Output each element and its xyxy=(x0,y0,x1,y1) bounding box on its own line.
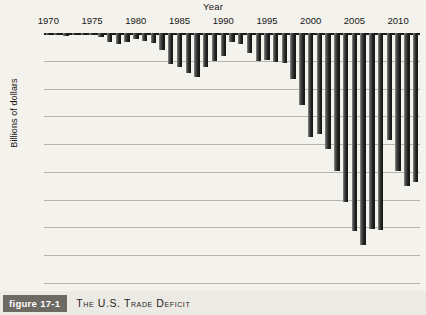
gridline xyxy=(44,283,420,284)
figure-number-badge: figure 17-1 xyxy=(3,295,67,312)
bar xyxy=(98,33,103,37)
x-axis-title: Year xyxy=(0,1,426,12)
x-axis-tick-label: 1975 xyxy=(82,15,103,26)
bar xyxy=(238,33,243,44)
bar xyxy=(186,33,191,73)
bar xyxy=(317,33,322,134)
bar xyxy=(194,33,199,77)
bar xyxy=(256,33,261,61)
bar xyxy=(142,33,147,41)
x-axis-tick-label: 1970 xyxy=(38,15,59,26)
bar xyxy=(325,33,330,149)
bar xyxy=(264,33,269,60)
bar xyxy=(159,33,164,50)
bar xyxy=(395,33,400,171)
bar xyxy=(124,33,129,42)
figure-caption: figure 17-1 The U.S. Trade Deficit xyxy=(0,291,426,315)
bar xyxy=(378,33,383,230)
figure-caption-title: The U.S. Trade Deficit xyxy=(76,297,190,309)
bar xyxy=(308,33,313,137)
bar xyxy=(247,33,252,53)
x-axis-tick-label: 2000 xyxy=(300,15,321,26)
x-axis-tick-label: 1985 xyxy=(169,15,190,26)
bar xyxy=(387,33,392,140)
bar xyxy=(229,33,234,42)
bar xyxy=(54,33,59,35)
bar xyxy=(334,33,339,171)
x-axis-tick-label: 2010 xyxy=(388,15,409,26)
figure-container: Year Billions of dollars 0−$100−$200−$30… xyxy=(0,0,426,315)
bar xyxy=(81,33,86,35)
bar xyxy=(72,33,77,35)
bar xyxy=(116,33,121,44)
bar xyxy=(133,33,138,39)
bar xyxy=(360,33,365,245)
bar xyxy=(369,33,374,229)
bar xyxy=(212,33,217,61)
bar xyxy=(404,33,409,186)
bar xyxy=(273,33,278,62)
bar xyxy=(413,33,418,182)
bar xyxy=(290,33,295,79)
bar xyxy=(352,33,357,231)
gridline xyxy=(44,255,420,256)
x-axis-tick-label: 2005 xyxy=(344,15,365,26)
x-axis-tick-label: 1980 xyxy=(125,15,146,26)
plot-area xyxy=(44,33,420,283)
bar xyxy=(177,33,182,67)
y-axis-title: Billions of dollars xyxy=(9,43,19,183)
x-axis-tick-label: 1990 xyxy=(213,15,234,26)
bar xyxy=(46,33,51,35)
bar xyxy=(63,33,68,36)
bar xyxy=(221,33,226,56)
x-axis-tick-labels: 197019751980198519901995200020052010 xyxy=(44,15,420,29)
bar xyxy=(282,33,287,63)
x-axis-tick-label: 1995 xyxy=(256,15,277,26)
bar xyxy=(343,33,348,202)
bar xyxy=(299,33,304,105)
bar xyxy=(203,33,208,67)
bar xyxy=(107,33,112,42)
bar xyxy=(168,33,173,64)
chart-area: Year Billions of dollars 0−$100−$200−$30… xyxy=(0,0,426,290)
bar xyxy=(89,33,94,35)
bar xyxy=(151,33,156,43)
